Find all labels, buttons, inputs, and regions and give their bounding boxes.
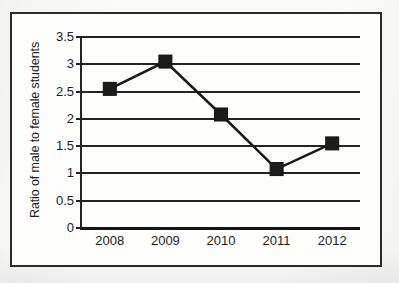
y-tick-label-2.5: 2.5 bbox=[28, 85, 74, 98]
x-tick-label-2009: 2009 bbox=[135, 234, 195, 248]
y-tick-label-3.5: 3.5 bbox=[28, 30, 74, 43]
y-tick-mark-1 bbox=[76, 172, 82, 174]
data-point-2008 bbox=[103, 82, 116, 95]
y-tick-mark-3 bbox=[76, 63, 82, 65]
y-tick-label-1: 1 bbox=[28, 166, 74, 179]
x-tick-label-2008: 2008 bbox=[80, 234, 140, 248]
x-tick-label-2011: 2011 bbox=[247, 234, 307, 248]
y-tick-mark-1.5 bbox=[76, 145, 82, 147]
y-tick-mark-0 bbox=[76, 227, 82, 229]
y-tick-mark-3.5 bbox=[76, 36, 82, 38]
data-point-2010 bbox=[215, 108, 228, 121]
y-tick-label-0.5: 0.5 bbox=[28, 194, 74, 207]
plot-area bbox=[82, 37, 360, 228]
series-layer bbox=[82, 37, 360, 228]
x-tick-label-2010: 2010 bbox=[191, 234, 251, 248]
data-point-2012 bbox=[326, 137, 339, 150]
y-axis-tick-labels: 00.511.522.533.5 bbox=[26, 0, 74, 283]
y-tick-label-3: 3 bbox=[28, 57, 74, 70]
y-tick-label-0: 0 bbox=[28, 221, 74, 234]
y-tick-mark-2.5 bbox=[76, 91, 82, 93]
y-tick-label-2: 2 bbox=[28, 112, 74, 125]
x-tick-label-2012: 2012 bbox=[302, 234, 362, 248]
chart-figure: Ratio of male to female students 00.511.… bbox=[0, 0, 399, 283]
data-point-2011 bbox=[270, 163, 283, 176]
y-tick-label-1.5: 1.5 bbox=[28, 139, 74, 152]
data-point-2009 bbox=[159, 55, 172, 68]
y-tick-mark-0.5 bbox=[76, 200, 82, 202]
y-tick-mark-2 bbox=[76, 118, 82, 120]
